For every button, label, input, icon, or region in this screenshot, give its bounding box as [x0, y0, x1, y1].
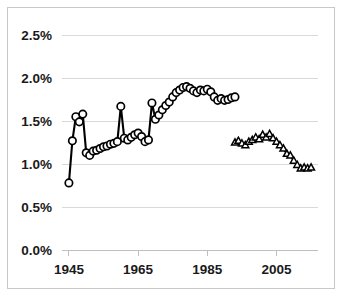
- series-circles-point: [65, 179, 72, 186]
- y-tick-label: 1.5%: [21, 114, 52, 129]
- series-triangles-point: [308, 164, 315, 170]
- x-tick-label: 2005: [261, 262, 292, 277]
- x-tick-label: 1965: [123, 262, 154, 277]
- y-tick-label: 0.5%: [21, 200, 52, 215]
- line-chart: 0.0%0.5%1.0%1.5%2.0%2.5% 194519651985200…: [0, 0, 342, 303]
- y-tick-label: 0.0%: [21, 243, 52, 258]
- y-tick-label: 2.0%: [21, 71, 52, 86]
- series-circles-point: [76, 118, 83, 125]
- chart-container: 0.0%0.5%1.0%1.5%2.0%2.5% 194519651985200…: [0, 0, 342, 303]
- series-circles-point: [79, 110, 86, 117]
- x-tick-label: 1945: [54, 262, 85, 277]
- x-axis-labels: 1945196519852005: [54, 262, 292, 277]
- y-tick-label: 2.5%: [21, 28, 52, 43]
- x-tick-label: 1985: [192, 262, 223, 277]
- series-circles-point: [69, 137, 76, 144]
- series-circles-point: [231, 93, 238, 100]
- series-circles-point: [148, 99, 155, 106]
- series-markers: [65, 83, 314, 187]
- series-circles-point: [145, 136, 152, 143]
- x-axis-tickmarks: [69, 250, 277, 256]
- y-tick-label: 1.0%: [21, 157, 52, 172]
- y-axis-labels: 0.0%0.5%1.0%1.5%2.0%2.5%: [21, 28, 52, 258]
- series-circles-point: [117, 103, 124, 110]
- series-lines: [69, 87, 311, 183]
